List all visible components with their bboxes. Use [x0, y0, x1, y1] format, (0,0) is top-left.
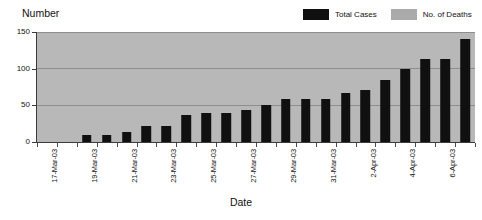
bar	[82, 135, 92, 142]
x-axis-tick	[156, 143, 157, 147]
x-axis-tick-label: 21-Mar-03	[130, 149, 139, 183]
bar	[460, 39, 470, 142]
x-axis-tick-label: 4-Apr-03	[408, 149, 417, 177]
x-axis-tick	[97, 143, 98, 147]
x-axis-tick-label: 23-Mar-03	[169, 149, 178, 183]
bar	[182, 115, 192, 142]
bar	[281, 99, 291, 142]
x-axis-tick	[216, 143, 217, 147]
bar	[241, 110, 251, 142]
bar-slot	[176, 32, 196, 142]
legend-swatch-total-cases	[303, 9, 329, 20]
x-axis-tick-label: 6-Apr-03	[448, 149, 457, 177]
bar	[440, 59, 450, 142]
bar-slot	[137, 32, 157, 142]
bar	[341, 93, 351, 142]
x-axis-tick	[77, 143, 78, 147]
x-axis-tick	[296, 143, 297, 147]
x-axis-tick	[395, 143, 396, 147]
bar-slot	[236, 32, 256, 142]
bar	[142, 126, 152, 142]
bar-slot	[316, 32, 336, 142]
legend-entry-total-cases: Total Cases	[303, 9, 377, 20]
x-axis-tick	[336, 143, 337, 147]
bars-layer	[37, 32, 475, 142]
bar-slot	[435, 32, 455, 142]
bar	[122, 132, 132, 142]
bar-slot	[57, 32, 77, 142]
x-axis-tick	[196, 143, 197, 147]
bar-slot	[77, 32, 97, 142]
x-axis-tick-label: 2-Apr-03	[369, 149, 378, 177]
x-axis-tick	[455, 143, 456, 147]
bar-slot	[196, 32, 216, 142]
bar-slot	[117, 32, 137, 142]
y-axis-tick-label: 100	[4, 64, 30, 73]
legend-swatch-no-of-deaths	[391, 9, 417, 20]
chart-legend: Total Cases No. of Deaths	[303, 9, 472, 20]
y-axis-title: Number	[22, 7, 59, 19]
x-axis-tick-label: 27-Mar-03	[249, 149, 258, 183]
y-axis-tick-label: 50	[4, 100, 30, 109]
bar	[420, 59, 430, 142]
x-axis-tick	[57, 143, 58, 147]
x-axis-tick	[236, 143, 237, 147]
x-axis-tick	[176, 143, 177, 147]
x-axis-tick	[137, 143, 138, 147]
x-axis-tick	[415, 143, 416, 147]
bar	[162, 126, 172, 142]
y-axis-tick-label: 0	[4, 137, 30, 146]
bar-slot	[356, 32, 376, 142]
bar	[102, 135, 112, 142]
x-axis-title: Date	[0, 196, 482, 208]
bar-slot	[455, 32, 475, 142]
y-axis-tick-label: 150	[4, 27, 30, 36]
bar	[301, 99, 311, 142]
legend-label-no-of-deaths: No. of Deaths	[423, 9, 472, 20]
x-axis-tick-label: 29-Mar-03	[289, 149, 298, 183]
bar	[221, 113, 231, 142]
x-axis-tick	[256, 143, 257, 147]
bar-slot	[256, 32, 276, 142]
x-axis-tick	[316, 143, 317, 147]
bar	[261, 105, 271, 142]
x-axis-tick	[356, 143, 357, 147]
bar-slot	[37, 32, 57, 142]
bar-slot	[216, 32, 236, 142]
legend-entry-no-of-deaths: No. of Deaths	[391, 9, 472, 20]
y-axis-tick	[32, 105, 37, 106]
x-axis-tick	[375, 143, 376, 147]
y-axis-line	[36, 32, 37, 143]
bar-slot	[276, 32, 296, 142]
bar-slot	[156, 32, 176, 142]
bar-chart: Total Cases No. of Deaths Number 0501001…	[0, 0, 482, 220]
x-axis-tick-label: 25-Mar-03	[209, 149, 218, 183]
bar-slot	[415, 32, 435, 142]
legend-label-total-cases: Total Cases	[335, 9, 377, 20]
y-axis-tick	[32, 69, 37, 70]
x-axis-tick-label: 31-Mar-03	[329, 149, 338, 183]
bar-slot	[296, 32, 316, 142]
bar-slot	[97, 32, 117, 142]
x-axis-tick	[475, 143, 476, 147]
bar-slot	[336, 32, 356, 142]
bar	[401, 69, 411, 142]
x-axis-tick	[117, 143, 118, 147]
bar	[321, 99, 331, 142]
bar	[361, 90, 371, 142]
bar-slot	[395, 32, 415, 142]
x-axis-tick	[37, 143, 38, 147]
y-axis-tick	[32, 32, 37, 33]
x-axis-tick-label: 19-Mar-03	[90, 149, 99, 183]
x-axis-tick	[435, 143, 436, 147]
x-axis-tick-label: 17-Mar-03	[50, 149, 59, 183]
bar	[201, 113, 211, 142]
x-axis-tick	[276, 143, 277, 147]
bar-slot	[375, 32, 395, 142]
bar	[381, 80, 391, 142]
